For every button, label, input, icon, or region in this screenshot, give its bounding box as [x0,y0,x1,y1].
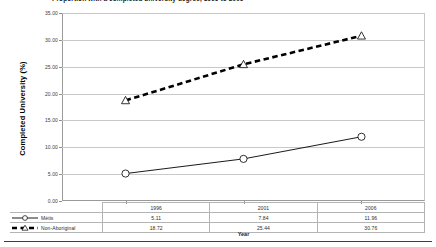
y-tick-label: 25.00 [45,64,58,70]
chart-figure: Proportion with a completed university d… [0,0,436,247]
footer-rule [4,241,432,242]
y-axis-title: Completed University (%) [18,39,27,179]
legend-label: Non-Aboriginal [41,225,75,231]
legend-data-table: 199620012006Métis5.117.8411.96Non-Aborig… [10,202,425,233]
x-axis-title: Year [62,231,425,237]
table-column-header: 1996 [103,203,210,213]
data-point-marker [358,133,365,140]
y-tick-label: 5.00 [48,171,58,177]
y-tick-label: 10.00 [45,144,58,150]
table-row: Métis5.117.8411.96 [10,213,425,223]
series-layer [62,13,425,201]
table-cell: 7.84 [210,213,317,223]
data-point-marker [122,170,129,177]
table-column-header: 2006 [317,203,424,213]
series-line-1 [126,36,362,101]
y-tick-label: 15.00 [45,117,58,123]
legend-marker-icon [12,214,38,222]
legend-entry-0: Métis [10,213,103,223]
table-cell: 5.11 [103,213,210,223]
table-header-row: 199620012006 [10,203,425,213]
y-tick-label: 35.00 [45,10,58,16]
data-point-marker [357,32,365,39]
table-column-header: 2001 [210,203,317,213]
chart-title: Proportion with a completed university d… [52,0,382,4]
plot-area: 0.005.0010.0015.0020.0025.0030.0035.00 [62,13,425,201]
y-tick-label: 20.00 [45,91,58,97]
table-corner-cell [10,203,103,213]
legend-label: Métis [41,215,53,221]
y-tick-label: 30.00 [45,37,58,43]
legend-marker-icon [12,224,38,232]
table-cell: 11.96 [317,213,424,223]
data-point-marker [240,155,247,162]
